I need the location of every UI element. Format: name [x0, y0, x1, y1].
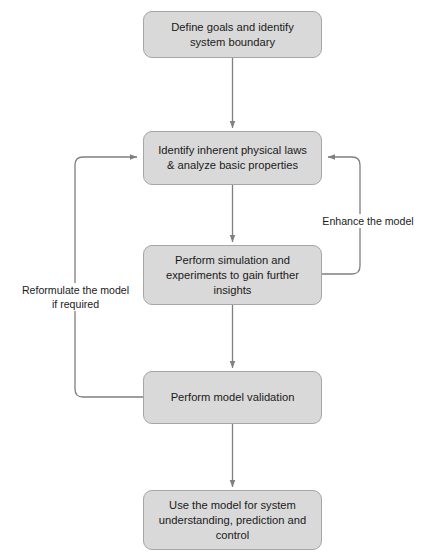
node-identify-laws[interactable]: Identify inherent physical laws & analyz…	[143, 131, 322, 185]
node-define-goals-label: Define goals and identify system boundar…	[153, 20, 312, 50]
node-model-validation-label: Perform model validation	[171, 390, 295, 405]
node-perform-simulation-label: Perform simulation and experiments to ga…	[153, 253, 312, 298]
edge-label-reformulate-the-model: Reformulate the model if required	[18, 283, 133, 311]
node-identify-laws-label: Identify inherent physical laws & analyz…	[153, 143, 312, 173]
node-use-model[interactable]: Use the model for system understanding, …	[143, 490, 322, 550]
flowchart-canvas: Define goals and identify system boundar…	[0, 0, 427, 559]
edge-label-enhance-the-model: Enhance the model	[313, 214, 423, 228]
node-use-model-label: Use the model for system understanding, …	[153, 498, 312, 543]
node-model-validation[interactable]: Perform model validation	[143, 371, 322, 424]
edge-reformulate-loop	[75, 157, 143, 397]
node-define-goals[interactable]: Define goals and identify system boundar…	[143, 11, 322, 58]
node-perform-simulation[interactable]: Perform simulation and experiments to ga…	[143, 245, 322, 305]
